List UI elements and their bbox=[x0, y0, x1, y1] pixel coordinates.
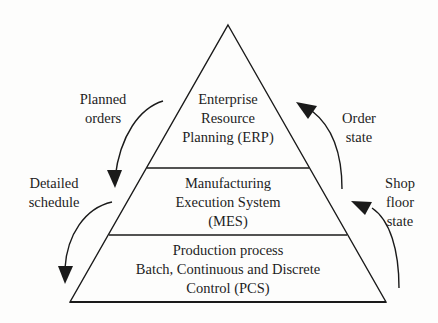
detailed-schedule-label-line-1: Detailed bbox=[29, 175, 79, 191]
layer-mes-line-2: Execution System bbox=[175, 194, 281, 210]
order-state-label-line-1: Order bbox=[342, 110, 376, 126]
flow-order-state: Order state bbox=[296, 102, 376, 189]
layer-erp-line-2: Resource bbox=[201, 110, 255, 126]
order-state-arrowhead-icon bbox=[296, 102, 317, 119]
layer-erp-line-1: Enterprise bbox=[198, 91, 258, 107]
planned-orders-label-line-1: Planned bbox=[80, 91, 127, 107]
planned-orders-arrowhead-icon bbox=[107, 170, 122, 188]
planned-orders-label-line-2: orders bbox=[85, 110, 122, 126]
detailed-schedule-arrow-icon bbox=[65, 202, 112, 268]
flow-shop-floor-state: Shop floor state bbox=[351, 175, 415, 288]
layer-mes-line-1: Manufacturing bbox=[185, 175, 271, 191]
layer-pcs-line-3: Control (PCS) bbox=[186, 280, 270, 297]
layer-erp: Enterprise Resource Planning (ERP) bbox=[182, 91, 274, 146]
shop-floor-state-label-line-1: Shop bbox=[385, 175, 415, 191]
order-state-label-line-2: state bbox=[346, 129, 373, 145]
layer-mes-line-3: (MES) bbox=[208, 213, 248, 230]
automation-pyramid-diagram: Enterprise Resource Planning (ERP) Manuf… bbox=[0, 0, 438, 323]
flow-detailed-schedule: Detailed schedule bbox=[29, 175, 112, 284]
planned-orders-arrow-icon bbox=[115, 101, 163, 178]
detailed-schedule-arrowhead-icon bbox=[58, 266, 73, 284]
layer-pcs-line-2: Batch, Continuous and Discrete bbox=[136, 261, 320, 277]
layer-mes: Manufacturing Execution System (MES) bbox=[175, 175, 281, 230]
detailed-schedule-label-line-2: schedule bbox=[29, 194, 80, 210]
layer-erp-line-3: Planning (ERP) bbox=[182, 129, 274, 146]
diagram-canvas: Enterprise Resource Planning (ERP) Manuf… bbox=[0, 0, 438, 323]
layer-pcs-line-1: Production process bbox=[173, 242, 284, 258]
flow-planned-orders: Planned orders bbox=[80, 91, 163, 188]
layer-pcs: Production process Batch, Continuous and… bbox=[136, 242, 320, 297]
shop-floor-state-label-line-2: floor bbox=[386, 194, 414, 210]
order-state-arrow-icon bbox=[312, 111, 342, 189]
shop-floor-state-label-line-3: state bbox=[387, 213, 414, 229]
shop-floor-state-arrowhead-icon bbox=[351, 201, 372, 215]
